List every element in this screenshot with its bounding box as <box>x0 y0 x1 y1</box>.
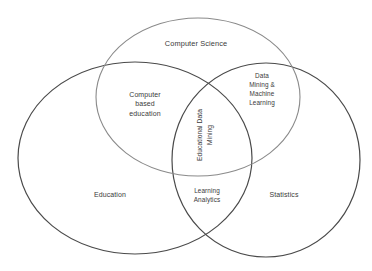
label-educational-data-mining: Educational Data Mining <box>195 109 215 161</box>
label-data-mining-machine-learning: Data Mining & Machine Learning <box>249 71 275 107</box>
venn-diagram: Computer Science Computer based educatio… <box>0 0 372 271</box>
label-computer-science: Computer Science <box>165 39 227 48</box>
label-learning-analytics: Learning Analytics <box>194 186 220 204</box>
label-education: Education <box>94 190 126 199</box>
label-statistics: Statistics <box>269 190 298 199</box>
label-computer-based-education: Computer based education <box>129 90 161 118</box>
